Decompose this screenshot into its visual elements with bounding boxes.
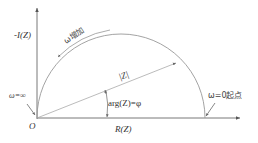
omega-zero-label: ω=0起点 (208, 91, 243, 100)
omega-infinity-pointer (27, 104, 35, 115)
angle-label: arg(Z)=φ (108, 98, 141, 108)
origin-label: O (29, 121, 36, 131)
y-axis-label: -I(Z) (14, 30, 31, 40)
omega-zero-pointer (206, 103, 215, 116)
impedance-diagram: -I(Z) R(Z) O ω增加 |Z| arg(Z)=φ ω=∞ ω=0起点 (0, 0, 258, 143)
magnitude-label: |Z| (117, 69, 130, 82)
magnitude-vector (37, 63, 176, 118)
omega-increase-label: ω增加 (62, 25, 86, 46)
omega-infinity-label: ω=∞ (9, 91, 26, 100)
x-axis-label: R(Z) (114, 124, 132, 134)
